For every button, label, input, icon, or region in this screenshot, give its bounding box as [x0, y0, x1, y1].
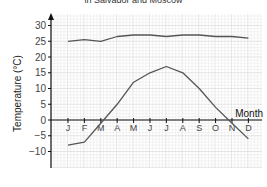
x-tick-label: J: [164, 123, 169, 133]
y-tick-label: 15: [35, 67, 47, 78]
y-tick-label: 0: [40, 115, 46, 126]
x-tick-label: M: [97, 123, 105, 133]
x-tick-label: A: [114, 123, 120, 133]
x-tick-label: J: [66, 123, 71, 133]
y-tick-label: −10: [29, 146, 46, 157]
y-tick-label: −5: [35, 130, 47, 141]
y-tick-label: 10: [35, 83, 47, 94]
x-axis-label: Month: [235, 108, 263, 119]
y-tick-label: 30: [35, 20, 47, 31]
x-tick-label: O: [212, 123, 219, 133]
y-tick-label: 20: [35, 52, 47, 63]
x-tick-label: F: [82, 123, 88, 133]
x-tick-label: A: [180, 123, 186, 133]
y-tick-label: 5: [40, 99, 46, 110]
y-tick-label: 25: [35, 36, 47, 47]
x-tick-label: D: [245, 123, 252, 133]
x-tick-label: J: [148, 123, 153, 133]
x-tick-label: S: [196, 123, 202, 133]
temperature-line-chart: 302520151050−5−10JFMAMJJASONDMonth: [0, 0, 267, 187]
y-axis-arrow-icon: [48, 13, 54, 20]
x-tick-label: M: [130, 123, 138, 133]
